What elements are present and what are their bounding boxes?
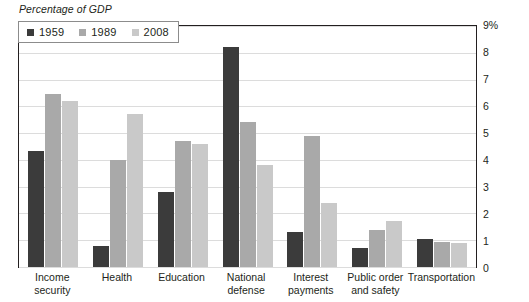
bar-group: [150, 26, 215, 267]
y-tick-4: 4: [483, 154, 489, 166]
x-label-2: Education: [149, 271, 214, 297]
bar-1989[interactable]: [369, 230, 385, 267]
y-tick-3: 3: [483, 181, 489, 193]
bar-1989[interactable]: [45, 94, 61, 267]
x-label-1: Health: [85, 271, 150, 297]
chart-legend: 195919892008: [18, 21, 179, 43]
bar-group: [86, 26, 151, 267]
legend-item-2008[interactable]: 2008: [132, 26, 169, 38]
plot-frame: [18, 25, 477, 268]
bar-1959[interactable]: [417, 239, 433, 267]
bar-1989[interactable]: [304, 136, 320, 267]
bar-group: [21, 26, 86, 267]
bar-2008[interactable]: [321, 203, 337, 267]
y-tick-9pct: 9%: [483, 19, 498, 31]
bar-1989[interactable]: [175, 141, 191, 267]
y-tick-7: 7: [483, 73, 489, 85]
bar-2008[interactable]: [127, 114, 143, 267]
bar-1959[interactable]: [28, 151, 44, 267]
bar-group: [215, 26, 280, 267]
x-label-line1: National: [227, 271, 266, 283]
bar-1989[interactable]: [434, 242, 450, 267]
bar-2008[interactable]: [451, 243, 467, 267]
y-tick-0: 0: [483, 262, 489, 274]
bar-group: [409, 26, 474, 267]
x-label-line1: Education: [158, 271, 205, 283]
bar-2008[interactable]: [192, 144, 208, 267]
x-label-line2: and safety: [343, 284, 408, 297]
legend-swatch-1959: [27, 29, 34, 36]
y-axis: 9%876543210: [483, 25, 523, 268]
x-label-line2: payments: [278, 284, 343, 297]
x-label-line2: security: [20, 284, 85, 297]
chart-title: Percentage of GDP: [19, 3, 112, 15]
bar-1989[interactable]: [240, 122, 256, 267]
bar-2008[interactable]: [386, 221, 402, 267]
legend-item-1959[interactable]: 1959: [27, 26, 64, 38]
y-tick-5: 5: [483, 127, 489, 139]
x-axis: IncomesecurityHealthEducationNationaldef…: [18, 271, 477, 297]
y-tick-2: 2: [483, 208, 489, 220]
bar-group: [345, 26, 410, 267]
x-label-line1: Interest: [293, 271, 328, 283]
legend-label-1989: 1989: [91, 26, 116, 38]
bar-2008[interactable]: [257, 165, 273, 267]
legend-label-2008: 2008: [144, 26, 169, 38]
bar-1959[interactable]: [287, 232, 303, 267]
bar-1959[interactable]: [352, 248, 368, 267]
x-label-line1: Transportation: [408, 271, 475, 283]
gdp-bar-chart: Percentage of GDP 195919892008 9%8765432…: [0, 0, 529, 302]
x-label-3: Nationaldefense: [214, 271, 279, 297]
bar-group: [280, 26, 345, 267]
x-label-5: Public orderand safety: [343, 271, 408, 297]
bar-1959[interactable]: [223, 47, 239, 267]
x-label-line1: Income: [35, 271, 69, 283]
bar-1959[interactable]: [93, 246, 109, 267]
legend-label-1959: 1959: [39, 26, 64, 38]
y-tick-6: 6: [483, 100, 489, 112]
x-label-line1: Public order: [347, 271, 403, 283]
x-label-0: Incomesecurity: [20, 271, 85, 297]
bar-1959[interactable]: [158, 192, 174, 267]
plot-area: [19, 26, 476, 267]
x-label-line2: defense: [214, 284, 279, 297]
y-tick-8: 8: [483, 46, 489, 58]
legend-swatch-2008: [132, 29, 139, 36]
x-label-4: Interestpayments: [278, 271, 343, 297]
bar-1989[interactable]: [110, 160, 126, 267]
x-label-line1: Health: [102, 271, 132, 283]
gridline: [19, 267, 476, 268]
legend-swatch-1989: [79, 29, 86, 36]
bar-2008[interactable]: [62, 101, 78, 267]
x-label-6: Transportation: [408, 271, 475, 297]
legend-item-1989[interactable]: 1989: [79, 26, 116, 38]
y-tick-1: 1: [483, 235, 489, 247]
